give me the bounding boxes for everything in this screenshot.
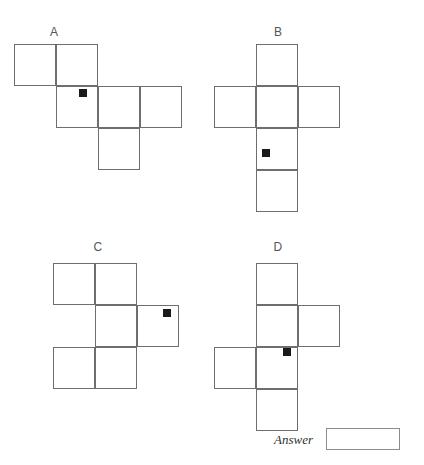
net-cell	[140, 86, 182, 128]
option-a-label: A	[44, 26, 64, 38]
answer-row: Answer	[274, 428, 414, 454]
net-cell	[53, 263, 95, 305]
net-cell	[95, 305, 137, 347]
net-cell	[214, 347, 256, 389]
net-cell	[256, 86, 298, 128]
face-marker-c	[163, 309, 171, 317]
net-cell	[256, 305, 298, 347]
net-cell	[53, 347, 95, 389]
option-b-label: B	[268, 26, 288, 38]
net-cell	[256, 44, 298, 86]
net-cell	[214, 86, 256, 128]
answer-label: Answer	[274, 432, 313, 448]
question-canvas: A B C D	[0, 0, 424, 465]
net-cell	[98, 86, 140, 128]
net-cell	[256, 263, 298, 305]
net-cell	[98, 128, 140, 170]
net-cell	[298, 305, 340, 347]
net-cell	[95, 347, 137, 389]
net-cell	[56, 86, 98, 128]
option-d-label: D	[268, 241, 288, 253]
answer-input[interactable]	[326, 428, 400, 450]
net-cell	[256, 347, 298, 389]
face-marker-a	[79, 89, 87, 97]
net-cell	[137, 305, 179, 347]
net-cell	[14, 44, 56, 86]
net-cell	[256, 170, 298, 212]
net-cell	[256, 389, 298, 431]
net-cell	[298, 86, 340, 128]
option-c-label: C	[88, 241, 108, 253]
face-marker-b	[262, 149, 270, 157]
net-cell	[95, 263, 137, 305]
net-cell	[56, 44, 98, 86]
face-marker-d	[283, 348, 291, 356]
